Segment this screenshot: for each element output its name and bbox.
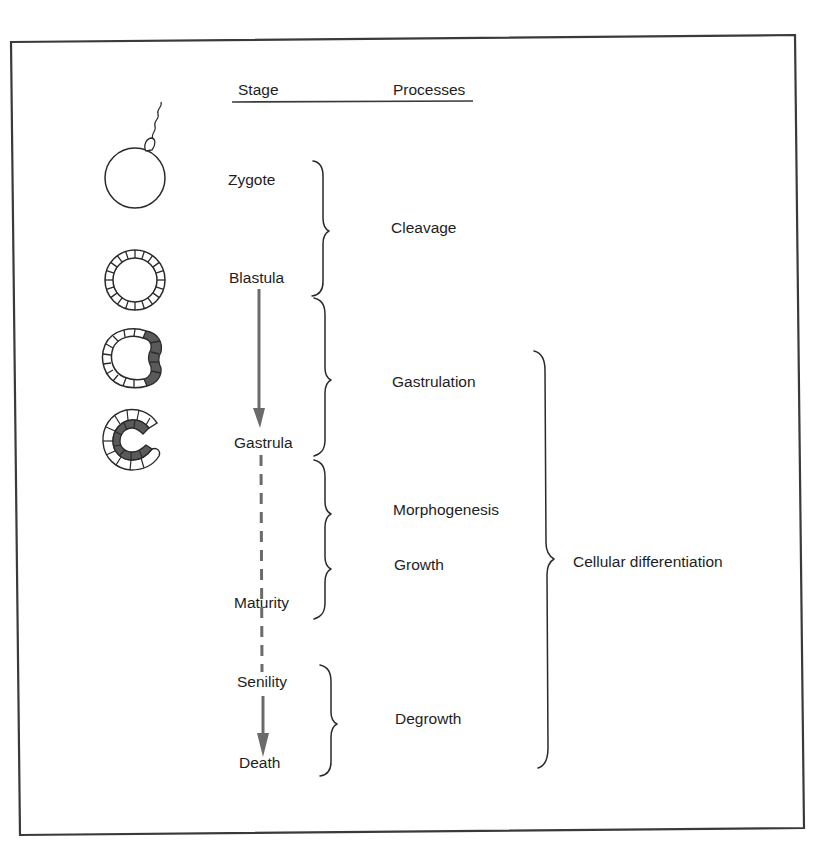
stage-label-senility: Senility (237, 673, 287, 690)
process-label-gastrulation: Gastrulation (392, 373, 476, 390)
header-underline (232, 101, 473, 102)
process-label-degrowth: Degrowth (395, 710, 461, 727)
arrowhead-icon (253, 408, 265, 428)
brace-degrowth (320, 665, 337, 776)
process-label-morphogenesis: Morphogenesis (393, 501, 499, 518)
arrow-blastula-to-gastrula (253, 289, 265, 428)
brace-cleavage (312, 161, 329, 296)
sperm-icon (145, 102, 162, 151)
stage-label-blastula: Blastula (229, 269, 285, 286)
blastula-illustration (105, 250, 165, 310)
early-gastrula-illustration (103, 329, 162, 388)
stage-label-death: Death (239, 754, 280, 771)
process-label-cleavage: Cleavage (391, 219, 457, 236)
brace-gastrulation (314, 298, 331, 456)
process-label-growth: Growth (394, 556, 444, 573)
zygote-illustration (105, 102, 165, 208)
gastrula-illustration (103, 410, 160, 470)
egg-cell-icon (105, 148, 165, 208)
column-header-processes: Processes (393, 81, 466, 98)
arrow-senility-to-death (257, 696, 269, 757)
brace-cellular-differentiation (534, 351, 554, 768)
development-stages-diagram: Stage Processes (0, 0, 814, 855)
dashed-line-gastrula-to-senility (261, 455, 262, 672)
stage-label-gastrula: Gastrula (234, 434, 293, 451)
process-label-cellular-differentiation: Cellular differentiation (573, 553, 723, 570)
brace-morphogenesis-growth (314, 460, 331, 619)
column-header-stage: Stage (238, 81, 279, 98)
stage-label-zygote: Zygote (228, 171, 275, 188)
